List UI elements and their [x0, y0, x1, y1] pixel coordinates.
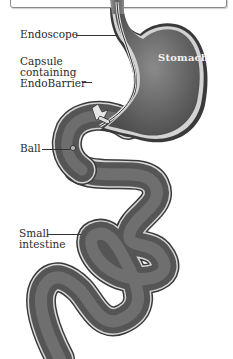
label-small-intestine: Small intestine: [19, 228, 66, 250]
leader-small-intestine: [47, 234, 81, 235]
leader-capsule: [82, 82, 92, 83]
label-ball: Ball: [20, 143, 41, 154]
label-stomach: Stomach: [158, 52, 208, 63]
label-capsule: Capsule containing EndoBarrier: [20, 56, 86, 89]
leader-ball: [42, 149, 70, 150]
stomach: [100, 8, 208, 142]
ball: [70, 145, 75, 150]
small-intestine: [41, 168, 165, 359]
label-endoscope: Endoscope: [20, 29, 78, 40]
leader-endoscope: [76, 35, 116, 36]
